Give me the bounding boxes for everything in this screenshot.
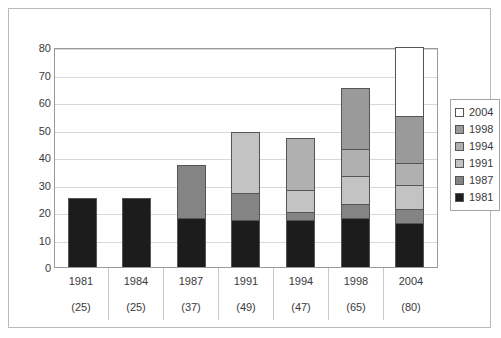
- bar-column-1991[interactable]: [219, 49, 273, 267]
- bars-layer: [55, 49, 437, 267]
- bar-segment-1994-1981[interactable]: [286, 220, 315, 267]
- legend-item-1998[interactable]: 1998: [455, 121, 495, 138]
- bar-stack-1998[interactable]: [341, 88, 370, 267]
- x-axis-total-2004: (80): [383, 294, 438, 320]
- x-axis: 1981198419871991199419982004 (25)(25)(37…: [54, 268, 438, 320]
- bar-stack-1991[interactable]: [231, 132, 260, 267]
- y-axis-tick-60: 60: [39, 98, 51, 109]
- bar-stack-1984[interactable]: [122, 198, 151, 267]
- x-axis-label-1998: 1998: [328, 268, 383, 294]
- x-axis-label-1994: 1994: [273, 268, 328, 294]
- x-axis-total-1994: (47): [273, 294, 328, 320]
- bar-segment-2004-1994[interactable]: [395, 163, 424, 185]
- bar-segment-2004-2004[interactable]: [395, 47, 424, 116]
- legend-swatch-icon-1987: [455, 176, 464, 185]
- y-axis-tick-20: 20: [39, 208, 51, 219]
- legend-label-1991: 1991: [469, 158, 493, 169]
- legend-swatch-icon-2004: [455, 108, 464, 117]
- bar-stack-1987[interactable]: [177, 165, 206, 267]
- x-axis-total-1998: (65): [328, 294, 383, 320]
- legend-item-1987[interactable]: 1987: [455, 172, 495, 189]
- bar-segment-1991-1987[interactable]: [231, 193, 260, 221]
- legend-label-1987: 1987: [469, 175, 493, 186]
- bar-segment-2004-1987[interactable]: [395, 209, 424, 223]
- bar-segment-1998-1987[interactable]: [341, 204, 370, 218]
- bar-segment-1984-1981[interactable]: [122, 198, 151, 267]
- x-axis-label-1981: 1981: [54, 268, 108, 294]
- bar-column-1987[interactable]: [164, 49, 218, 267]
- bar-segment-1994-1994[interactable]: [286, 138, 315, 190]
- x-axis-label-2004: 2004: [383, 268, 438, 294]
- bar-stack-1994[interactable]: [286, 138, 315, 267]
- bar-segment-1998-1994[interactable]: [341, 149, 370, 177]
- y-axis-tick-50: 50: [39, 125, 51, 136]
- legend-label-2004: 2004: [469, 107, 493, 118]
- y-axis-tick-0: 0: [45, 263, 51, 274]
- y-axis-tick-40: 40: [39, 153, 51, 164]
- x-axis-totals-row: (25)(25)(37)(49)(47)(65)(80): [54, 294, 438, 320]
- legend-swatch-icon-1998: [455, 125, 464, 134]
- x-axis-total-1981: (25): [54, 294, 108, 320]
- x-axis-label-1984: 1984: [108, 268, 163, 294]
- x-axis-total-1984: (25): [108, 294, 163, 320]
- y-axis: 80706050403020100: [23, 48, 51, 268]
- x-axis-label-1987: 1987: [163, 268, 218, 294]
- chart-frame: 80706050403020100 1981198419871991199419…: [8, 8, 491, 328]
- bar-segment-1998-1991[interactable]: [341, 176, 370, 204]
- bar-column-1984[interactable]: [110, 49, 164, 267]
- bar-segment-1994-1987[interactable]: [286, 212, 315, 220]
- legend-label-1994: 1994: [469, 141, 493, 152]
- bar-segment-2004-1998[interactable]: [395, 116, 424, 163]
- bar-segment-2004-1981[interactable]: [395, 223, 424, 267]
- bar-segment-1998-1981[interactable]: [341, 218, 370, 268]
- legend-item-2004[interactable]: 2004: [455, 104, 495, 121]
- chart-legend: 200419981994199119871981: [450, 99, 500, 211]
- bar-stack-2004[interactable]: [395, 47, 424, 267]
- bar-stack-1981[interactable]: [68, 198, 97, 267]
- legend-item-1991[interactable]: 1991: [455, 155, 495, 172]
- bar-segment-1998-1998[interactable]: [341, 88, 370, 149]
- bar-column-2004[interactable]: [383, 49, 437, 267]
- bar-segment-1994-1991[interactable]: [286, 190, 315, 212]
- y-axis-tick-10: 10: [39, 235, 51, 246]
- bar-segment-1981-1981[interactable]: [68, 198, 97, 267]
- bar-segment-1991-1981[interactable]: [231, 220, 260, 267]
- y-axis-tick-80: 80: [39, 43, 51, 54]
- bar-column-1981[interactable]: [55, 49, 109, 267]
- legend-label-1998: 1998: [469, 124, 493, 135]
- legend-swatch-icon-1981: [455, 193, 464, 202]
- x-axis-years-row: 1981198419871991199419982004: [54, 268, 438, 294]
- bar-segment-2004-1991[interactable]: [395, 185, 424, 210]
- bar-column-1998[interactable]: [328, 49, 382, 267]
- y-axis-tick-70: 70: [39, 70, 51, 81]
- legend-swatch-icon-1991: [455, 159, 464, 168]
- y-axis-tick-30: 30: [39, 180, 51, 191]
- legend-item-1994[interactable]: 1994: [455, 138, 495, 155]
- bar-segment-1987-1981[interactable]: [177, 218, 206, 268]
- bar-column-1994[interactable]: [274, 49, 328, 267]
- bar-segment-1991-1991[interactable]: [231, 132, 260, 193]
- x-axis-label-1991: 1991: [218, 268, 273, 294]
- legend-item-1981[interactable]: 1981: [455, 189, 495, 206]
- x-axis-total-1991: (49): [218, 294, 273, 320]
- legend-swatch-icon-1994: [455, 142, 464, 151]
- x-axis-total-1987: (37): [163, 294, 218, 320]
- legend-label-1981: 1981: [469, 192, 493, 203]
- plot-area: [54, 48, 438, 268]
- bar-segment-1987-1987[interactable]: [177, 165, 206, 217]
